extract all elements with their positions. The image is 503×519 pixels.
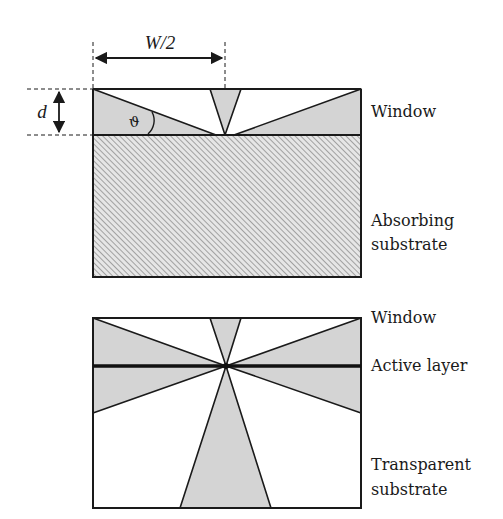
led-escape-cone-diagram: W/2 d ϑ Window Absorbing substrate [0, 0, 503, 519]
bottom-window-label: Window [371, 308, 436, 327]
angle-label: ϑ [129, 113, 140, 131]
absorbing-substrate [93, 135, 361, 277]
top-window-label: Window [371, 102, 436, 121]
active-layer-label: Active layer [370, 356, 468, 375]
thickness-dimension: d [27, 89, 93, 135]
top-structure: W/2 d ϑ Window Absorbing substrate [27, 32, 454, 277]
thickness-label: d [37, 101, 47, 122]
absorbing-substrate-label-line2: substrate [371, 235, 447, 254]
absorbing-substrate-label-line1: Absorbing [370, 211, 454, 230]
emission-point [223, 363, 229, 369]
width-label: W/2 [145, 32, 176, 53]
transparent-substrate-label-line2: substrate [371, 480, 447, 499]
transparent-substrate-label-line1: Transparent [371, 455, 472, 474]
bottom-structure: Window Active layer Transparent substrat… [93, 308, 472, 508]
